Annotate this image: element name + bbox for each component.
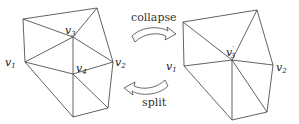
label-v1-right: v1 bbox=[166, 60, 177, 74]
collapse-label: collapse bbox=[131, 11, 177, 24]
split-arrow bbox=[124, 80, 168, 95]
split-label: split bbox=[142, 96, 167, 109]
label-v3-prime-right: v′3 bbox=[226, 45, 236, 60]
label-v3-left: v3 bbox=[65, 24, 76, 38]
label-v2-left: v2 bbox=[115, 56, 126, 70]
diagram-canvas: v1 v2 v3 v4 collapse split v1 v2 v′3 bbox=[0, 0, 299, 124]
label-v4-left: v4 bbox=[76, 62, 87, 76]
right-mesh bbox=[183, 10, 273, 120]
label-v2-right: v2 bbox=[276, 61, 287, 75]
collapse-arrow bbox=[132, 27, 176, 42]
label-v1-left: v1 bbox=[5, 56, 16, 70]
